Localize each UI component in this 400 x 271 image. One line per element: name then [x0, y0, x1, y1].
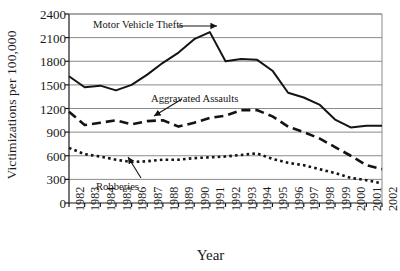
x-tick-label: 1998	[324, 187, 336, 211]
x-tick-label: 2002	[387, 187, 399, 211]
x-tick-label: 1987	[152, 187, 164, 211]
annotation-motor-vehicle-thefts: Motor Vehicle Thefts	[93, 20, 183, 31]
x-tick-label: 1995	[277, 187, 289, 211]
x-tick-label: 2001	[371, 187, 383, 211]
x-tick-label: 1989	[183, 187, 195, 211]
x-tick-label: 1994	[261, 187, 273, 211]
x-tick-label: 1999	[340, 187, 352, 211]
annotation-arrow-2	[128, 157, 141, 178]
series-line-2	[69, 148, 382, 183]
x-tick-label: 2000	[355, 187, 367, 211]
x-tick-label: 1991	[214, 187, 226, 211]
x-tick-label: 1982	[74, 187, 86, 211]
x-tick-label: 1997	[308, 187, 320, 211]
annotation-aggravated-assaults: Aggravated Assaults	[151, 94, 238, 105]
x-tick-label: 1993	[246, 187, 258, 211]
data-series-group	[69, 32, 382, 183]
x-tick-label: 1990	[199, 187, 211, 211]
x-axis-title-container: Year	[0, 247, 393, 264]
x-tick-label: 1992	[230, 187, 242, 211]
annotation-robberies: Robberies	[96, 182, 139, 193]
x-axis-title: Year	[169, 247, 225, 263]
x-tick-label: 1996	[293, 187, 305, 211]
x-tick-label: 1988	[168, 187, 180, 211]
series-line-0	[69, 32, 382, 127]
